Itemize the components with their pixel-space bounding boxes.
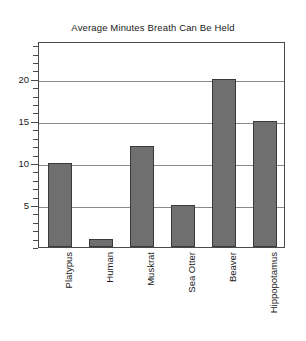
y-tick-label-15: 15 bbox=[18, 117, 29, 127]
y-tick-major-20 bbox=[31, 80, 38, 81]
bars-group bbox=[39, 43, 284, 247]
y-tick-major-10 bbox=[31, 164, 38, 165]
bar-muskrat bbox=[130, 146, 154, 247]
bar-platypus bbox=[48, 163, 72, 247]
y-tick-major-5 bbox=[31, 206, 38, 207]
x-tick-label-human: Human bbox=[105, 252, 115, 283]
chart-title: Average Minutes Breath Can Be Held bbox=[0, 22, 306, 34]
y-axis: 5101520 bbox=[0, 42, 38, 248]
y-tick-minor-0 bbox=[33, 248, 38, 249]
bar-hippopotamus bbox=[253, 121, 277, 247]
y-tick-label-10: 10 bbox=[18, 159, 29, 169]
x-tick-label-beaver: Beaver bbox=[228, 252, 238, 282]
x-tick-label-platypus: Platypus bbox=[64, 252, 74, 288]
y-tick-major-15 bbox=[31, 122, 38, 123]
bar-chart: Average Minutes Breath Can Be Held 51015… bbox=[0, 0, 306, 341]
x-axis: PlatypusHumanMuskratSea OtterBeaverHippo… bbox=[38, 252, 285, 341]
y-tick-label-5: 5 bbox=[24, 201, 29, 211]
bar-human bbox=[89, 239, 113, 247]
bar-sea-otter bbox=[171, 205, 195, 247]
x-tick-label-muskrat: Muskrat bbox=[146, 252, 156, 286]
x-tick-label-hippopotamus: Hippopotamus bbox=[269, 252, 279, 313]
x-tick-label-sea-otter: Sea Otter bbox=[187, 252, 197, 293]
plot-area bbox=[38, 42, 285, 248]
y-tick-label-20: 20 bbox=[18, 75, 29, 85]
bar-beaver bbox=[212, 79, 236, 247]
